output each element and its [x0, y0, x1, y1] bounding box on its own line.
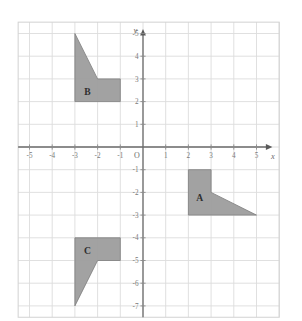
- y-axis-arrow-icon: [140, 29, 146, 36]
- shape-label-b: B: [84, 86, 91, 97]
- x-axis-tick-label: -5: [27, 152, 33, 160]
- x-axis-tick-label: 3: [209, 152, 213, 160]
- x-axis-tick-label: -4: [49, 152, 55, 160]
- x-axis-arrow-icon: [266, 144, 273, 150]
- y-axis-name-label: y: [133, 26, 138, 35]
- grid-lines: [18, 22, 279, 317]
- coordinate-grid-figure: -5-4-3-2-11234554321-1-2-3-4-5-6-7O xy A…: [0, 0, 302, 321]
- y-axis-tick-label: -7: [133, 303, 139, 311]
- y-axis-tick-label: -1: [133, 166, 139, 174]
- x-axis-name-label: x: [270, 152, 275, 161]
- axes-group: [18, 29, 272, 317]
- x-axis-tick-label: -3: [72, 152, 78, 160]
- y-axis-tick-label: -2: [133, 189, 139, 197]
- plot-area: -5-4-3-2-11234554321-1-2-3-4-5-6-7O xy A…: [0, 0, 302, 321]
- axis-names: xy: [133, 26, 275, 160]
- y-axis-tick-label: 2: [135, 98, 139, 106]
- y-axis-tick-label: 1: [135, 121, 139, 129]
- origin-label: O: [134, 151, 140, 160]
- y-axis-tick-label: 3: [135, 76, 139, 84]
- x-axis-tick-label: 4: [232, 152, 236, 160]
- x-axis-tick-label: 2: [187, 152, 191, 160]
- y-axis-tick-label: -5: [133, 257, 139, 265]
- shape-label-a: A: [196, 192, 203, 203]
- y-axis-tick-label: 4: [135, 53, 139, 61]
- x-axis-tick-label: -2: [95, 152, 101, 160]
- y-axis-tick-label: -6: [133, 280, 139, 288]
- x-axis-tick-label: 1: [164, 152, 168, 160]
- y-axis-tick-label: -3: [133, 212, 139, 220]
- y-axis-tick-label: -4: [133, 234, 139, 242]
- x-axis-tick-label: 5: [255, 152, 259, 160]
- shape-label-c: C: [84, 245, 91, 256]
- x-axis-tick-label: -1: [117, 152, 123, 160]
